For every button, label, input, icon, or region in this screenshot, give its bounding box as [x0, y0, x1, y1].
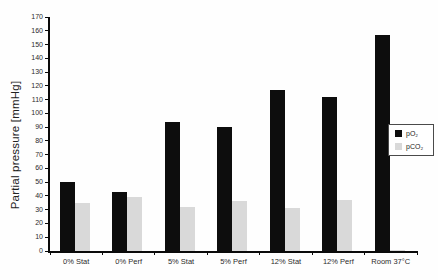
y-tick-label: 20 — [17, 219, 43, 227]
y-tick-mark — [45, 140, 50, 141]
x-tick-mark — [259, 251, 260, 255]
category-label: Room 37°C — [360, 257, 422, 266]
bar-po2-5 — [322, 97, 337, 251]
y-tick-mark — [45, 30, 50, 31]
y-tick-label: 80 — [17, 137, 43, 145]
x-tick-mark — [312, 251, 313, 255]
x-tick-mark — [50, 251, 51, 255]
y-tick-mark — [45, 127, 50, 128]
y-tick-label: 90 — [17, 123, 43, 131]
y-tick-label: 0 — [17, 247, 43, 255]
bar-pco2-0 — [75, 203, 90, 251]
bar-po2-3 — [217, 127, 232, 251]
y-tick-mark — [45, 85, 50, 86]
bar-chart-figure: Partial pressure [mmHg] 0102030405060708… — [0, 0, 438, 280]
legend: pO₂pCO₂ — [388, 124, 434, 156]
y-tick-mark — [45, 168, 50, 169]
y-tick-label: 120 — [17, 82, 43, 90]
y-tick-label: 40 — [17, 192, 43, 200]
legend-item-po2: pO₂ — [395, 130, 429, 137]
y-tick-label: 140 — [17, 54, 43, 62]
y-tick-mark — [45, 99, 50, 100]
y-tick-mark — [45, 195, 50, 196]
y-tick-label: 150 — [17, 41, 43, 49]
y-tick-label: 100 — [17, 109, 43, 117]
y-tick-mark — [45, 223, 50, 224]
legend-item-pco2: pCO₂ — [395, 143, 429, 150]
y-tick-mark — [45, 237, 50, 238]
y-tick-mark — [45, 58, 50, 59]
y-tick-label: 130 — [17, 68, 43, 76]
y-tick-label: 170 — [17, 13, 43, 21]
y-tick-mark — [45, 209, 50, 210]
legend-label: pCO₂ — [406, 143, 423, 150]
y-tick-label: 50 — [17, 178, 43, 186]
y-tick-label: 10 — [17, 233, 43, 241]
x-tick-mark — [417, 251, 418, 255]
y-tick-label: 160 — [17, 27, 43, 35]
y-tick-mark — [45, 154, 50, 155]
plot-area: 0102030405060708090100110120130140150160… — [48, 17, 417, 253]
x-tick-mark — [154, 251, 155, 255]
bar-po2-0 — [60, 182, 75, 251]
po2-swatch-icon — [395, 130, 402, 137]
y-tick-label: 30 — [17, 206, 43, 214]
bar-pco2-4 — [285, 208, 300, 251]
bar-pco2-1 — [127, 197, 142, 251]
bar-po2-4 — [270, 90, 285, 251]
y-tick-mark — [45, 44, 50, 45]
bar-pco2-2 — [180, 207, 195, 251]
bar-po2-1 — [112, 192, 127, 251]
y-tick-mark — [45, 113, 50, 114]
y-tick-label: 110 — [17, 96, 43, 104]
legend-label: pO₂ — [406, 130, 418, 137]
pco2-swatch-icon — [395, 143, 402, 150]
y-tick-mark — [45, 72, 50, 73]
bar-pco2-6 — [390, 250, 405, 251]
y-tick-label: 60 — [17, 164, 43, 172]
y-tick-mark — [45, 182, 50, 183]
bar-pco2-3 — [232, 201, 247, 251]
x-tick-mark — [102, 251, 103, 255]
x-tick-mark — [364, 251, 365, 255]
x-tick-mark — [207, 251, 208, 255]
bar-pco2-5 — [337, 200, 352, 251]
y-tick-label: 70 — [17, 151, 43, 159]
bar-po2-2 — [165, 122, 180, 251]
y-tick-mark — [45, 17, 50, 18]
